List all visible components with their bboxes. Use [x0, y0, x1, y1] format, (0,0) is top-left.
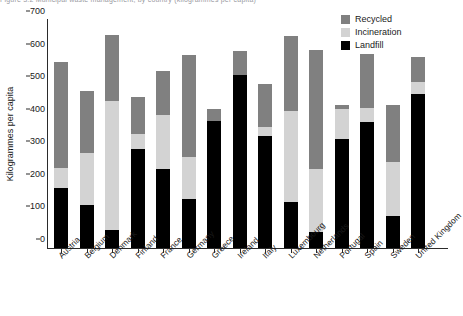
bar-segment-recycled: [80, 91, 94, 153]
bar-greece: [207, 109, 221, 248]
bar-segment-landfill: [233, 75, 247, 248]
bar-segment-landfill: [54, 188, 68, 248]
bar-segment-landfill: [411, 94, 425, 248]
x-axis-tick-mark: [367, 249, 368, 253]
bar-segment-incineration: [360, 108, 374, 122]
bar-segment-recycled: [284, 36, 298, 111]
bar-segment-incineration: [131, 134, 145, 149]
x-axis-tick-mark: [112, 249, 113, 253]
y-axis-tick-label: 300: [30, 137, 45, 146]
x-axis-tick-mark: [265, 249, 266, 253]
bar-segment-recycled: [386, 105, 400, 162]
legend-swatch-icon: [341, 41, 350, 50]
chart-title-text: Figure 3.2 Municipal waste management, b…: [0, 0, 453, 3]
y-axis-tick-label: 200: [30, 169, 45, 178]
bar-segment-incineration: [54, 168, 68, 188]
bar-segment-recycled: [335, 105, 349, 109]
x-axis-tick-mark: [163, 249, 164, 253]
bar-segment-recycled: [258, 84, 272, 127]
bar-segment-incineration: [182, 157, 196, 199]
legend-label: Landfill: [355, 41, 384, 50]
y-axis-tick-label: 700: [30, 7, 45, 16]
plot-area: 0100200300400500600700: [48, 20, 448, 248]
x-axis-tick-mark: [87, 249, 88, 253]
bar-italy: [258, 84, 272, 248]
bar-denmark: [105, 35, 119, 248]
y-axis-title-text: Kilogrammes per capita: [5, 87, 15, 182]
legend-item-landfill: Landfill: [341, 40, 451, 51]
bar-segment-recycled: [105, 35, 119, 102]
bar-finland: [131, 97, 145, 248]
x-axis-tick-mark: [138, 249, 139, 253]
bar-segment-recycled: [131, 97, 145, 134]
x-axis-tick-mark: [214, 249, 215, 253]
bar-segment-recycled: [54, 62, 68, 168]
bar-france: [156, 71, 170, 248]
bar-segment-recycled: [207, 109, 221, 121]
x-axis-tick-mark: [316, 249, 317, 253]
x-axis-labels: AustriaBelgiumDenmarkFinlandFranceGerman…: [0, 254, 453, 316]
bar-segment-recycled: [233, 51, 247, 75]
y-axis-tick-label: 0: [40, 235, 45, 244]
legend-item-incineration: Incineration: [341, 27, 451, 38]
bar-segment-recycled: [360, 54, 374, 108]
x-axis-tick-mark: [240, 249, 241, 253]
bar-ireland: [233, 51, 247, 248]
bar-spain: [360, 54, 374, 248]
bar-segment-recycled: [156, 71, 170, 115]
bar-germany: [182, 55, 196, 248]
bar-united-kingdom: [411, 56, 425, 248]
x-axis-tick-mark: [393, 249, 394, 253]
x-axis-tick-mark: [418, 249, 419, 253]
bar-segment-incineration: [386, 162, 400, 216]
chart-title-cutoff: Figure 3.2 Municipal waste management, b…: [0, 0, 453, 7]
x-axis-tick-mark: [189, 249, 190, 253]
x-axis-tick-mark: [61, 249, 62, 253]
y-axis-title: Kilogrammes per capita: [4, 20, 16, 248]
x-axis-tick-mark: [291, 249, 292, 253]
bar-segment-incineration: [105, 101, 119, 230]
bar-segment-recycled: [411, 57, 425, 82]
y-axis-tick-label: 400: [30, 104, 45, 113]
bar-segment-recycled: [309, 50, 323, 169]
bar-segment-incineration: [335, 109, 349, 139]
y-axis-tick-label: 500: [30, 72, 45, 81]
bar-segment-landfill: [258, 136, 272, 248]
bar-segment-incineration: [80, 153, 94, 205]
y-axis-tick-label: 100: [30, 202, 45, 211]
bar-belgium: [80, 91, 94, 248]
legend-swatch-icon: [341, 28, 350, 37]
bar-segment-landfill: [360, 122, 374, 248]
bar-segment-incineration: [284, 111, 298, 202]
bar-segment-landfill: [156, 169, 170, 248]
chart-legend: RecycledIncinerationLandfill: [341, 14, 451, 53]
bar-sweden: [386, 105, 400, 248]
legend-label: Recycled: [355, 15, 392, 24]
y-axis-tick-label: 600: [30, 39, 45, 48]
legend-label: Incineration: [355, 28, 402, 37]
bar-segment-incineration: [411, 82, 425, 94]
bar-segment-incineration: [156, 115, 170, 169]
legend-item-recycled: Recycled: [341, 14, 451, 25]
bar-segment-landfill: [284, 202, 298, 248]
bar-luxembourg: [284, 36, 298, 248]
bar-netherlands: [309, 50, 323, 248]
x-axis-tick-mark: [342, 249, 343, 253]
legend-swatch-icon: [341, 15, 350, 24]
bar-segment-incineration: [258, 127, 272, 137]
bar-segment-recycled: [182, 55, 196, 157]
bar-austria: [54, 62, 68, 248]
